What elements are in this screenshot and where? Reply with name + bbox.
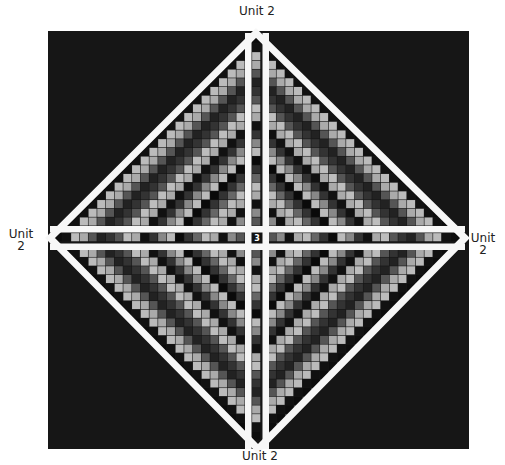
quilt-tile <box>303 310 311 318</box>
quilt-tile <box>123 183 131 191</box>
quilt-tile <box>89 258 97 266</box>
quilt-tile <box>252 104 260 112</box>
quilt-tile <box>158 191 166 199</box>
quilt-tile <box>158 310 166 318</box>
quilt-tile <box>184 122 192 130</box>
quilt-tile <box>89 233 97 241</box>
quilt-tile <box>311 148 319 156</box>
quilt-tile <box>252 174 260 182</box>
quilt-tile <box>364 301 372 309</box>
quilt-tile <box>176 258 184 266</box>
quilt-tile <box>311 284 319 292</box>
quilt-tile <box>123 217 131 225</box>
quilt-tile <box>252 78 260 86</box>
unit-label-right-line2: 2 <box>466 244 500 256</box>
quilt-tile <box>329 275 337 283</box>
quilt-tile <box>132 183 140 191</box>
quilt-tile <box>303 122 311 130</box>
quilt-tile <box>236 405 244 413</box>
quilt-tile <box>294 87 302 95</box>
quilt-tile <box>277 275 285 283</box>
quilt-tile <box>364 258 372 266</box>
quilt-tile <box>141 191 149 199</box>
quilt-tile <box>184 292 192 300</box>
quilt-tile <box>320 327 328 335</box>
quilt-tile <box>202 200 210 208</box>
quilt-tile <box>123 191 131 199</box>
quilt-tile <box>277 327 285 335</box>
quilt-tile <box>252 217 260 225</box>
quilt-tile <box>294 174 302 182</box>
quilt-tile <box>210 301 218 309</box>
quilt-tile <box>193 209 201 217</box>
quilt-tile <box>176 233 184 241</box>
quilt-tile <box>355 284 363 292</box>
quilt-tile <box>219 209 227 217</box>
quilt-tile <box>381 249 389 257</box>
unit-label-left: Unit 2 <box>4 228 38 252</box>
quilt-tile <box>303 209 311 217</box>
quilt-tile <box>416 233 424 241</box>
quilt-tile <box>320 200 328 208</box>
quilt-tile <box>277 122 285 130</box>
quilt-tile <box>228 174 236 182</box>
quilt-tile <box>236 353 244 361</box>
quilt-tile <box>337 345 345 353</box>
quilt-tile <box>141 183 149 191</box>
quilt-tile <box>210 209 218 217</box>
quilt-tile <box>236 139 244 147</box>
quilt-tile <box>320 301 328 309</box>
quilt-tile <box>311 200 319 208</box>
quilt-tile <box>167 139 175 147</box>
quilt-tile <box>219 200 227 208</box>
quilt-tile <box>372 174 380 182</box>
quilt-tile <box>337 200 345 208</box>
quilt-tile <box>149 327 157 335</box>
quilt-tile <box>236 275 244 283</box>
quilt-tile <box>268 165 276 173</box>
quilt-tile <box>329 249 337 257</box>
quilt-tile <box>285 249 293 257</box>
quilt-tile <box>407 275 415 283</box>
quilt-tile <box>424 233 432 241</box>
quilt-tile <box>252 388 260 396</box>
quilt-tile <box>364 157 372 165</box>
quilt-tile <box>202 165 210 173</box>
quilt-tile <box>193 345 201 353</box>
quilt-tile <box>337 310 345 318</box>
quilt-tile <box>228 327 236 335</box>
quilt-tile <box>390 233 398 241</box>
quilt-tile <box>277 336 285 344</box>
quilt-tile <box>167 292 175 300</box>
quilt-tile <box>346 292 354 300</box>
quilt-tile <box>329 318 337 326</box>
quilt-tile <box>285 362 293 370</box>
quilt-tile <box>252 200 260 208</box>
quilt-tile <box>268 200 276 208</box>
quilt-tile <box>372 209 380 217</box>
quilt-tile <box>433 249 441 257</box>
quilt-tile <box>210 191 218 199</box>
quilt-tile <box>184 258 192 266</box>
quilt-tile <box>285 388 293 396</box>
quilt-tile <box>123 275 131 283</box>
quilt-tile <box>355 301 363 309</box>
quilt-tile <box>219 266 227 274</box>
quilt-tile <box>268 258 276 266</box>
quilt-tile <box>311 362 319 370</box>
quilt-tile <box>346 310 354 318</box>
quilt-tile <box>149 157 157 165</box>
quilt-tile <box>303 345 311 353</box>
quilt-tile <box>355 217 363 225</box>
quilt-tile <box>106 258 114 266</box>
quilt-tile <box>398 200 406 208</box>
quilt-tile <box>320 266 328 274</box>
quilt-tile <box>285 183 293 191</box>
quilt-tile <box>329 174 337 182</box>
quilt-tile <box>268 345 276 353</box>
quilt-tile <box>303 284 311 292</box>
quilt-tile <box>97 200 105 208</box>
quilt-tile <box>184 266 192 274</box>
quilt-tile <box>346 249 354 257</box>
quilt-tile <box>158 327 166 335</box>
